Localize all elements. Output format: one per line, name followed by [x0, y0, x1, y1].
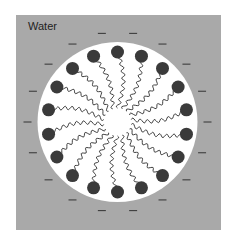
head [66, 62, 79, 75]
head [156, 62, 169, 75]
head [50, 81, 63, 94]
head [180, 103, 193, 116]
head [135, 50, 148, 63]
head [42, 103, 55, 116]
head [50, 151, 63, 164]
head [87, 181, 100, 194]
head [156, 169, 169, 182]
head [42, 128, 55, 141]
water-label: Water [28, 20, 57, 32]
head [66, 169, 79, 182]
head [135, 181, 148, 194]
head [172, 81, 185, 94]
micelle-core [38, 42, 198, 202]
head [172, 151, 185, 164]
head [111, 186, 124, 199]
head [180, 128, 193, 141]
head [111, 46, 124, 59]
head [87, 50, 100, 63]
micelle-svg [0, 0, 233, 241]
micelle-diagram: Water [0, 0, 233, 241]
